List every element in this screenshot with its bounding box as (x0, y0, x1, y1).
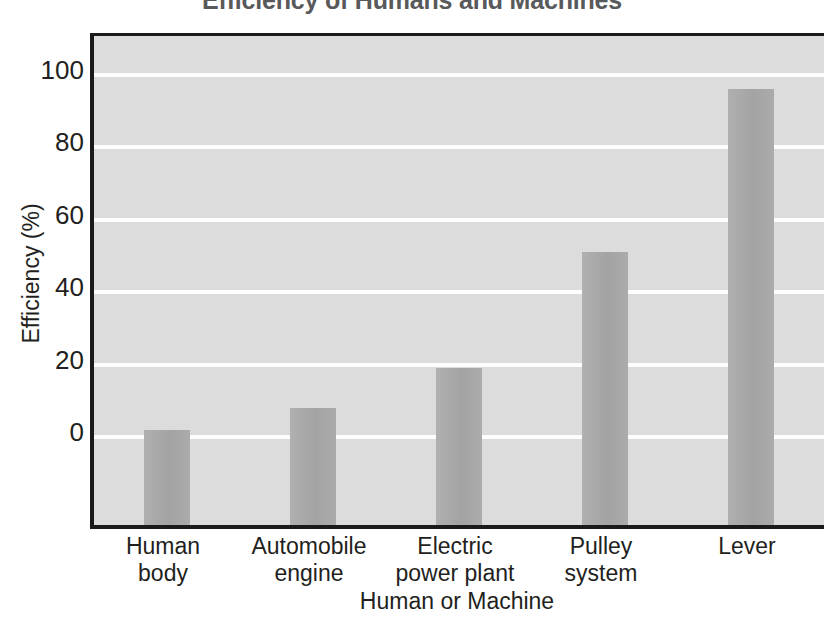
y-tick-label-100: 100 (16, 57, 84, 83)
y-tick-label-60: 60 (16, 202, 84, 228)
chart-figure: Efficiency of Humans and Machines Effici… (0, 0, 824, 626)
bar-2 (290, 408, 336, 525)
plot-inner (94, 36, 824, 525)
bar-4 (582, 252, 628, 525)
y-tick-label-0: 0 (16, 419, 84, 445)
gridline-40 (94, 290, 824, 294)
x-tick-label-line: system (511, 560, 691, 587)
x-tick-label-5: Lever (657, 533, 824, 560)
bar-5 (728, 89, 774, 525)
gridline-20 (94, 363, 824, 367)
x-axis-tick-labels: HumanbodyAutomobileengineElectricpower p… (90, 533, 824, 595)
chart-title: Efficiency of Humans and Machines (0, 0, 824, 15)
bar-1 (144, 430, 190, 525)
gridline-100 (94, 73, 824, 77)
gridline-60 (94, 218, 824, 222)
plot-area (90, 33, 824, 529)
y-tick-label-20: 20 (16, 347, 84, 373)
y-tick-label-40: 40 (16, 274, 84, 300)
x-axis-title: Human or Machine (90, 588, 824, 615)
gridline-80 (94, 145, 824, 149)
y-tick-label-80: 80 (16, 129, 84, 155)
bar-3 (436, 368, 482, 525)
x-tick-label-line: Lever (657, 533, 824, 560)
